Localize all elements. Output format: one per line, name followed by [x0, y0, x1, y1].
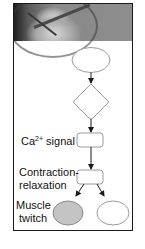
arrow-contraction-to-twitch-b — [97, 184, 104, 196]
contraction-label-line2: relaxation — [19, 179, 67, 191]
contraction-rect-node — [77, 170, 103, 184]
decision-diamond-node — [74, 84, 109, 119]
contraction-label-line1: Contraction- — [19, 166, 79, 178]
muscle-twitch-label-line1: Muscle — [16, 199, 51, 211]
ca-signal-rect-node — [77, 133, 103, 147]
muscle-twitch-label-line2: twitch — [19, 212, 47, 224]
start-oval-node — [72, 48, 110, 73]
muscle-twitch-gray-oval-node — [53, 201, 83, 225]
arrow-contraction-to-twitch-a — [76, 184, 84, 196]
muscle-twitch-white-oval-node — [97, 201, 129, 225]
ca-signal-label: Ca2+ signal — [21, 135, 75, 147]
